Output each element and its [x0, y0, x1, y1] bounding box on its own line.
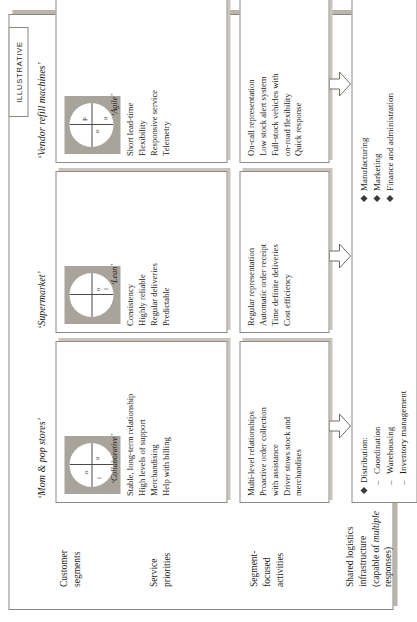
row-label-customer-segments: Customer segments — [57, 509, 83, 587]
circle-caption-agile: ‘Agile’ — [109, 94, 118, 116]
list-item: Predictable — [160, 178, 172, 326]
shared-logistics-functions-group: Manufacturing Marketing Finance and admi… — [357, 93, 396, 202]
sub-item-warehousing: Warehousing — [383, 391, 396, 494]
list-item: Multi-level relationships — [245, 348, 257, 496]
row-label-shared-logistics: Shared logistics infrastructure (capable… — [343, 509, 394, 587]
circle-horizontal-divider — [91, 103, 92, 147]
list-item: Consistency — [124, 178, 136, 326]
segment-activities-vendor-refill: On-call representation Low stock alert s… — [240, 0, 328, 162]
matrix-columns: ‘Mom & pop stores’ ‘Supermarket’ ‘Vendor… — [35, 33, 376, 505]
down-arrow-vendor-refill — [329, 71, 351, 97]
bullet-marketing: Marketing — [370, 93, 383, 202]
list-item: Stable, long-term relationship — [124, 348, 136, 496]
down-arrow-mom-and-pop — [329, 413, 351, 439]
list-item: Short lead-time — [124, 3, 136, 156]
list-item: Regular representation — [245, 178, 257, 326]
circle-horizontal-divider — [91, 443, 92, 487]
column-header-vendor-refill: ‘Vendor refill machines’ — [35, 62, 51, 159]
shared-logistics-distribution-group: Distribution: Coordination Warehousing I… — [357, 391, 409, 494]
list-item: Low stock alert system — [257, 3, 269, 156]
list-item: Responsive service — [148, 3, 160, 156]
service-priorities-mom-and-pop: Stable, long-term relationship High leve… — [124, 348, 171, 496]
list-item: Proactive order collection — [257, 348, 269, 496]
shared-logistics-box[interactable]: Distribution: Coordination Warehousing I… — [351, 0, 417, 503]
activities-box-supermarket[interactable]: Regular representation Automatic order r… — [239, 171, 329, 333]
list-item: Full-stock vehicles with — [269, 3, 281, 156]
illustrative-label: ILLUSTRATIVE — [14, 41, 23, 103]
circle-panel-vendor-refill: P o a ‘Agile’ — [64, 96, 120, 154]
list-item: Regular deliveries — [148, 178, 160, 326]
list-item: Flexibility — [136, 3, 148, 156]
row-label-shared-logistics-line3: (capable of multiple — [369, 509, 382, 587]
figure-frame: ILLUSTRATIVE Customer segments Service p… — [8, 14, 393, 610]
list-item: Cost efficiency — [281, 178, 293, 326]
quadrant-label-a: a — [100, 117, 108, 120]
quadrant-label-l: l — [101, 288, 109, 290]
sub-item-inventory-management: Inventory management — [396, 391, 409, 494]
service-priorities-supermarket: Consistency Highly reliable Regular deli… — [124, 178, 171, 326]
list-item: Quick response — [292, 3, 304, 156]
row-label-service-priorities: Service priorities — [147, 509, 173, 587]
quadrant-label-o: o — [92, 130, 100, 134]
bullet-finance-and-administration: Finance and administration — [383, 93, 396, 202]
segment-box-mom-and-pop[interactable]: i o a ‘Collaborative’ Stable, long-term … — [55, 341, 227, 503]
illustrative-tag: ILLUSTRATIVE — [8, 27, 28, 117]
quadrant-circle-collaborative: i o a — [69, 443, 113, 487]
circle-panel-supermarket: o l ‘Lean’ — [64, 266, 120, 324]
bullet-distribution: Distribution: — [357, 391, 370, 494]
list-item: on-road flexibility — [281, 3, 293, 156]
quadrant-circle-lean: o l — [69, 273, 113, 317]
circle-caption-collaborative: ‘Collaborative’ — [109, 434, 118, 484]
list-item: Automatic order receipt — [257, 178, 269, 326]
quadrant-label-top-left: o — [81, 471, 89, 475]
service-priorities-vendor-refill: Short lead-time Flexibility Responsive s… — [124, 3, 171, 156]
circle-horizontal-divider — [91, 273, 92, 317]
circle-caption-lean: ‘Lean’ — [109, 264, 118, 285]
list-item: Time definite deliveries — [269, 178, 281, 326]
list-item: Driver stows stock and — [281, 348, 293, 496]
bullet-manufacturing: Manufacturing — [357, 93, 370, 202]
row-label-segment-focused-activities: Segment- focused activities — [247, 509, 285, 587]
list-item: On-call representation — [245, 3, 257, 156]
list-item: Highly reliable — [136, 178, 148, 326]
column-headers: ‘Mom & pop stores’ ‘Supermarket’ ‘Vendor… — [35, 33, 51, 505]
list-item: High levels of support — [136, 348, 148, 496]
sub-item-coordination: Coordination — [370, 391, 383, 494]
list-item: Merchandising — [148, 348, 160, 496]
quadrant-label-o: o — [93, 288, 101, 292]
circle-panel-mom-and-pop: i o a ‘Collaborative’ — [64, 436, 120, 494]
segment-box-vendor-refill[interactable]: P o a ‘Agile’ Short lead-time Flexibilit… — [55, 0, 227, 163]
activities-box-vendor-refill[interactable]: On-call representation Low stock alert s… — [239, 0, 329, 163]
quadrant-circle-agile: P o a — [69, 103, 113, 147]
matrix-grid: Customer segments Service priorities Seg… — [35, 33, 376, 587]
segment-activities-supermarket: Regular representation Automatic order r… — [240, 172, 328, 332]
down-arrow-supermarket — [329, 243, 351, 269]
segment-activities-mom-and-pop: Multi-level relationships Proactive orde… — [240, 342, 328, 502]
list-item: Telemetry — [160, 3, 172, 156]
quadrant-label-p: P — [80, 117, 88, 121]
list-item: merchandises — [292, 348, 304, 496]
list-item: with assistance — [269, 348, 281, 496]
column-header-mom-and-pop: ‘Mom & pop stores’ — [35, 418, 51, 499]
segment-box-supermarket[interactable]: o l ‘Lean’ Consistency Highly reliable R… — [55, 171, 227, 333]
column-header-supermarket: ‘Supermarket’ — [35, 271, 51, 329]
list-item: Help with billing — [160, 348, 172, 496]
row-label-column: Customer segments Service priorities Seg… — [35, 509, 376, 587]
quadrant-label-bottom-left: i — [94, 477, 102, 479]
quadrant-label-right: a — [92, 457, 100, 460]
activities-box-mom-and-pop[interactable]: Multi-level relationships Proactive orde… — [239, 341, 329, 503]
